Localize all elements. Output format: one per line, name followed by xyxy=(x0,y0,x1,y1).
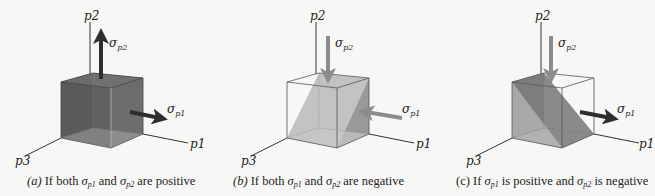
sigma-p1-arrow xyxy=(366,112,402,118)
p3-label: p3 xyxy=(241,154,257,168)
cube-front-face xyxy=(61,82,111,148)
principal-stress-diagram: p2 p1 p3 σp2 σp1 (a) If both σp1 and σp2… xyxy=(0,0,655,196)
p2-label: p2 xyxy=(535,9,550,23)
p1-label: p1 xyxy=(639,137,654,151)
p1-axis xyxy=(143,134,188,143)
sigma-p2-label: σp2 xyxy=(335,36,353,52)
p2-label: p2 xyxy=(310,9,325,23)
sigma-p1-label: σp1 xyxy=(402,102,420,118)
stress-cube xyxy=(287,73,369,148)
p1-axis xyxy=(369,134,414,143)
p3-label: p3 xyxy=(15,154,31,168)
sigma-p1-label: σp1 xyxy=(617,102,635,118)
sigma-p1-arrow xyxy=(580,112,611,118)
caption-c: (c) If σp1 is positive and σp2 is negati… xyxy=(456,174,649,189)
p3-axis xyxy=(476,138,512,156)
caption-a: (a) If both σp1 and σp2 are positive xyxy=(27,174,196,189)
panel-a: p2 p1 p3 σp2 σp1 (a) If both σp1 and σp2… xyxy=(15,9,205,189)
caption-b: (b) If both σp1 and σp2 are negative xyxy=(233,174,404,189)
p3-axis xyxy=(25,138,61,156)
panel-c: p2 p1 p3 σp2 σp1 (c) If σp1 is positive … xyxy=(456,9,654,189)
p1-label: p1 xyxy=(190,137,205,151)
p3-axis xyxy=(251,138,287,156)
p1-axis xyxy=(594,134,639,143)
p1-label: p1 xyxy=(416,137,431,151)
sigma-p2-label: σp2 xyxy=(558,36,576,52)
sigma-p2-label: σp2 xyxy=(109,36,127,52)
panel-b: p2 p1 p3 σp2 σp1 (b) If both σp1 and σp2… xyxy=(233,9,431,189)
p3-label: p3 xyxy=(466,154,482,168)
sigma-p1-label: σp1 xyxy=(167,102,185,118)
p2-label: p2 xyxy=(84,9,99,23)
